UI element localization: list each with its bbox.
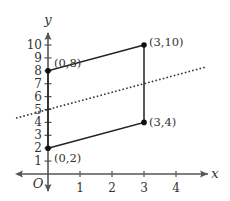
point-label: (3,4) xyxy=(149,115,176,129)
vertex-dot xyxy=(141,120,147,126)
point-label: (0,8) xyxy=(54,56,81,70)
y-tick-label: 2 xyxy=(34,141,42,155)
origin-label: O xyxy=(33,176,44,191)
x-tick-label: 3 xyxy=(140,181,148,195)
x-tick-label: 2 xyxy=(108,181,116,195)
vertex-dot xyxy=(45,68,51,74)
x-tick-label: 1 xyxy=(76,181,84,195)
y-tick-label: 10 xyxy=(27,38,42,52)
y-tick-label: 1 xyxy=(34,154,42,168)
coordinate-plane-svg: 123412345678910 (0,8)(3,10)(3,4)(0,2) x … xyxy=(0,0,230,201)
y-tick-label: 5 xyxy=(34,103,42,117)
y-tick-label: 6 xyxy=(34,90,42,104)
y-tick-label: 7 xyxy=(34,77,42,91)
vertex-dot xyxy=(45,145,51,151)
y-tick-label: 9 xyxy=(34,51,42,65)
point-label: (3,10) xyxy=(149,35,184,49)
vertex-points: (0,8)(3,10)(3,4)(0,2) xyxy=(45,35,183,165)
x-tick-label: 4 xyxy=(172,181,180,195)
y-axis-label: y xyxy=(43,12,52,27)
y-tick-label: 3 xyxy=(34,128,42,142)
x-axis-label: x xyxy=(211,166,219,181)
point-label: (0,2) xyxy=(54,151,81,165)
coordinate-plane-figure: 123412345678910 (0,8)(3,10)(3,4)(0,2) x … xyxy=(0,0,230,201)
vertex-dot xyxy=(141,42,147,48)
axes xyxy=(15,32,208,192)
y-tick-label: 8 xyxy=(34,64,42,78)
y-tick-label: 4 xyxy=(34,115,42,129)
dotted-line-path xyxy=(16,67,205,118)
dotted-line xyxy=(16,67,205,118)
